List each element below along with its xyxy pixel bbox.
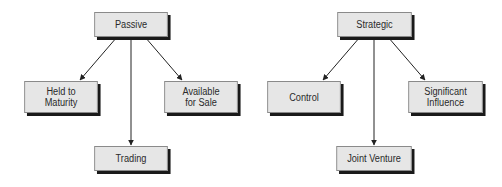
- arrow-passive-to-held-to-maturity: [80, 37, 117, 80]
- node-strategic: Strategic: [337, 12, 412, 37]
- node-label: Held to Maturity: [45, 86, 78, 108]
- node-label: Available for Sale: [182, 86, 219, 108]
- node-label: Trading: [116, 153, 147, 164]
- node-joint-venture: Joint Venture: [336, 146, 411, 171]
- arrow-strategic-to-significant-influence: [388, 37, 425, 80]
- node-label: Control: [289, 92, 319, 103]
- node-available-for-sale: Available for Sale: [164, 81, 238, 113]
- node-label: Joint Venture: [347, 153, 401, 164]
- node-significant-influence: Significant Influence: [408, 81, 483, 113]
- node-label: Strategic: [356, 19, 392, 30]
- diagram-canvas: Passive Held to Maturity Available for S…: [0, 0, 502, 187]
- node-control: Control: [267, 81, 341, 113]
- arrow-strategic-to-control: [323, 37, 360, 80]
- node-label: Significant Influence: [424, 86, 466, 108]
- node-label: Passive: [115, 19, 147, 30]
- node-held-to-maturity: Held to Maturity: [24, 81, 98, 113]
- node-passive: Passive: [94, 12, 168, 37]
- node-trading: Trading: [94, 146, 168, 171]
- arrow-passive-to-available-for-sale: [145, 37, 182, 80]
